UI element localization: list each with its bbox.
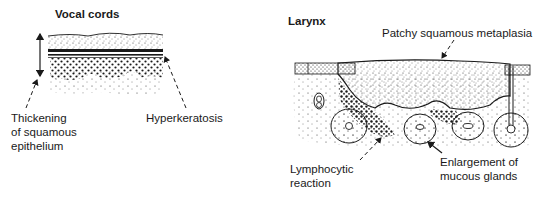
mucous-gland xyxy=(331,109,367,143)
hyperkeratosis-leader xyxy=(165,57,186,108)
hyperkeratosis-label: Hyperkeratosis xyxy=(146,111,223,125)
glands-label: Enlargement of mucous glands xyxy=(440,155,518,183)
mucous-gland xyxy=(452,112,484,140)
larynx-title: Larynx xyxy=(288,15,326,27)
metaplasia-leader xyxy=(442,40,454,58)
lymphocytic-label: Lymphocytic reaction xyxy=(290,162,354,190)
vocal-cords-title: Vocal cords xyxy=(55,8,119,20)
mucous-gland xyxy=(404,114,436,144)
vocal-cords-illustration xyxy=(26,33,186,108)
thickening-leader xyxy=(26,80,37,108)
thickening-label: Thickening of squamous epithelium xyxy=(11,111,77,153)
larynx-illustration xyxy=(293,40,530,160)
metaplasia-label: Patchy squamous metaplasia xyxy=(382,26,532,40)
